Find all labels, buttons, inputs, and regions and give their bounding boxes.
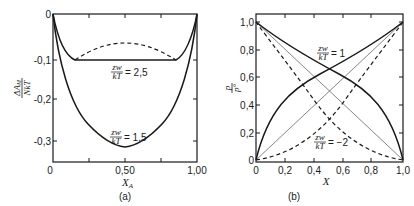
panel-a: 0 -0,1 -0,2 -0,3 0 0,50 1,00 XA (a) ΔAM … [12,9,207,202]
svg-text:p°: p° [231,84,241,94]
y-tick-label: -0,1 [34,55,52,66]
svg-text:= 2,5: = 2,5 [125,67,148,78]
y-tick-label: 0,6 [240,72,254,83]
svg-text:kT: kT [316,141,326,151]
x-tick-label: 0 [253,165,259,176]
y-tick-label: 0,8 [240,45,254,56]
y-tick-label: 0,4 [240,100,254,111]
y-tick-label: -0,2 [34,94,52,105]
x-tick-label: 1,0 [396,165,410,176]
x-tick-label: 0 [47,165,53,176]
svg-text:kT: kT [113,71,123,81]
svg-text:kT: kT [112,136,122,146]
y-tick-label: 0,2 [240,128,254,139]
curve-zw-2.5-solid [53,14,197,60]
x-tick-label: 1,00 [187,165,207,176]
annotation-zw-1.5: zw kT = 1,5 [110,127,147,146]
x-axis-label-a: XA [121,176,134,190]
annotation-zw-1: zw kT = 1 [317,43,346,62]
y-axis-label-b: p p° [222,83,241,93]
curve-zw-2.5-dashed [75,43,176,60]
y-tick-label: 0 [45,9,51,20]
x-tick-label: 0,6 [336,165,350,176]
caption-b: (b) [288,191,300,202]
panel-b: 0 0,2 0,4 0,6 0,8 1,0 0 0,2 0,4 0,6 0,8 … [222,14,410,202]
y-tick-label: 1,0 [240,17,254,28]
x-axis-label-b: X [322,175,331,187]
svg-text:= 1: = 1 [331,48,346,59]
x-tick-label: 0,8 [364,165,378,176]
figure: 0 -0,1 -0,2 -0,3 0 0,50 1,00 XA (a) ΔAM … [0,0,414,206]
y-tick-label: -0,3 [34,136,52,147]
svg-text:ΔAM: ΔAM [12,79,22,97]
annotation-zw-neg2: zw kT = −2 [314,132,348,151]
annotation-zw-2.5: zw kT = 2,5 [111,62,148,81]
svg-text:= −2: = −2 [328,137,348,148]
y-axis-label-a: ΔAM NkT [12,78,32,98]
svg-text:= 1,5: = 1,5 [124,132,147,143]
x-tick-label: 0,2 [278,165,292,176]
x-tick-label: 0,50 [115,165,135,176]
svg-text:kT: kT [319,52,329,62]
caption-a: (a) [119,191,131,202]
curve-zw-1.5 [53,14,197,147]
x-tick-label: 0,4 [307,165,321,176]
svg-text:NkT: NkT [22,80,32,97]
